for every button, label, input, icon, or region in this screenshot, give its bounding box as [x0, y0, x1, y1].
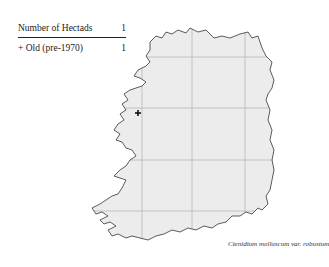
species-caption: Ctenidium molluscum var. robustum [228, 240, 329, 248]
